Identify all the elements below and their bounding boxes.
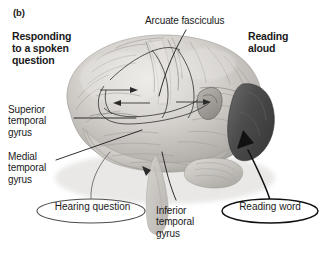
heading-responding-to-spoken-question: Responding to a spoken question (12, 31, 107, 67)
label-inferior-temporal-gyrus: Inferior temporal gyrus (156, 205, 226, 239)
label-superior-temporal-gyrus: Superior temporal gyrus (8, 104, 82, 138)
callout-label-reading-word: Reading word (225, 201, 315, 212)
label-medial-temporal-gyrus: Medial temporal gyrus (8, 151, 82, 185)
occipital-visual-region (228, 84, 275, 161)
heading-reading-aloud: Reading aloud (248, 31, 318, 55)
cerebellum (184, 158, 242, 188)
figure-panel-b: (b) Responding to a spoken question Read… (0, 0, 327, 255)
label-arcuate-fasciculus: Arcuate fasciculus (145, 15, 275, 26)
panel-letter: (b) (13, 8, 25, 19)
callout-label-hearing-question: Hearing question (40, 201, 145, 212)
